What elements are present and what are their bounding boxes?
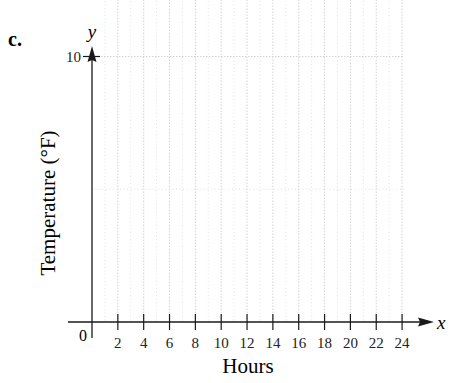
y-axis-arrow-icon bbox=[88, 46, 97, 62]
x-axis-label: Hours bbox=[222, 354, 273, 378]
x-tick-label: 22 bbox=[369, 335, 384, 351]
x-ticks: 24681012141618202224 bbox=[114, 314, 410, 351]
x-tick-label: 18 bbox=[317, 335, 332, 351]
temperature-chart: 24681012141618202224 102030405060708090 … bbox=[0, 0, 466, 383]
x-tick-label: 24 bbox=[395, 335, 411, 351]
y-axis-label: Temperature (°F) bbox=[36, 130, 60, 275]
x-tick-label: 8 bbox=[192, 335, 200, 351]
x-tick-label: 20 bbox=[343, 335, 358, 351]
x-axis-name: x bbox=[436, 312, 446, 333]
origin-label: 0 bbox=[79, 327, 87, 344]
x-tick-label: 6 bbox=[166, 335, 174, 351]
grid bbox=[92, 0, 404, 322]
x-tick-label: 2 bbox=[114, 335, 122, 351]
x-tick-label: 14 bbox=[265, 335, 281, 351]
x-tick-label: 16 bbox=[291, 335, 307, 351]
x-tick-label: 12 bbox=[240, 335, 255, 351]
axes bbox=[68, 46, 434, 338]
x-tick-label: 4 bbox=[140, 335, 148, 351]
x-tick-label: 10 bbox=[214, 335, 229, 351]
y-tick-label: 10 bbox=[66, 49, 81, 65]
y-axis-name: y bbox=[86, 21, 97, 42]
x-axis-arrow-icon bbox=[418, 318, 434, 327]
panel-label: c. bbox=[8, 28, 22, 50]
